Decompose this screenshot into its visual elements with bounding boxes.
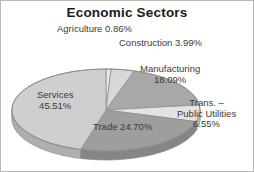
slice-label-services-name: Services <box>37 90 73 101</box>
slice-label-services-value: 45.51% <box>37 101 73 112</box>
slice-label-transport-line1: Trans. – <box>177 98 236 109</box>
slice-label-manufacturing-name: Manufacturing <box>140 64 200 75</box>
slice-label-transport-value: 6.55% <box>177 119 236 130</box>
slice-label-services: Services 45.51% <box>37 90 73 111</box>
slice-label-construction: Construction 3.99% <box>119 38 202 49</box>
slice-label-manufacturing: Manufacturing 18.09% <box>140 64 200 85</box>
slice-label-trade: Trade 24.70% <box>93 122 152 133</box>
chart-image: Economic Sectors Agriculture 0.86% Const… <box>0 0 254 172</box>
slice-label-transport: Trans. – Public Utilities 6.55% <box>177 98 236 130</box>
chart-title: Economic Sectors <box>1 5 253 20</box>
slice-label-agriculture: Agriculture 0.86% <box>57 24 132 35</box>
slice-label-manufacturing-value: 18.09% <box>140 75 200 86</box>
